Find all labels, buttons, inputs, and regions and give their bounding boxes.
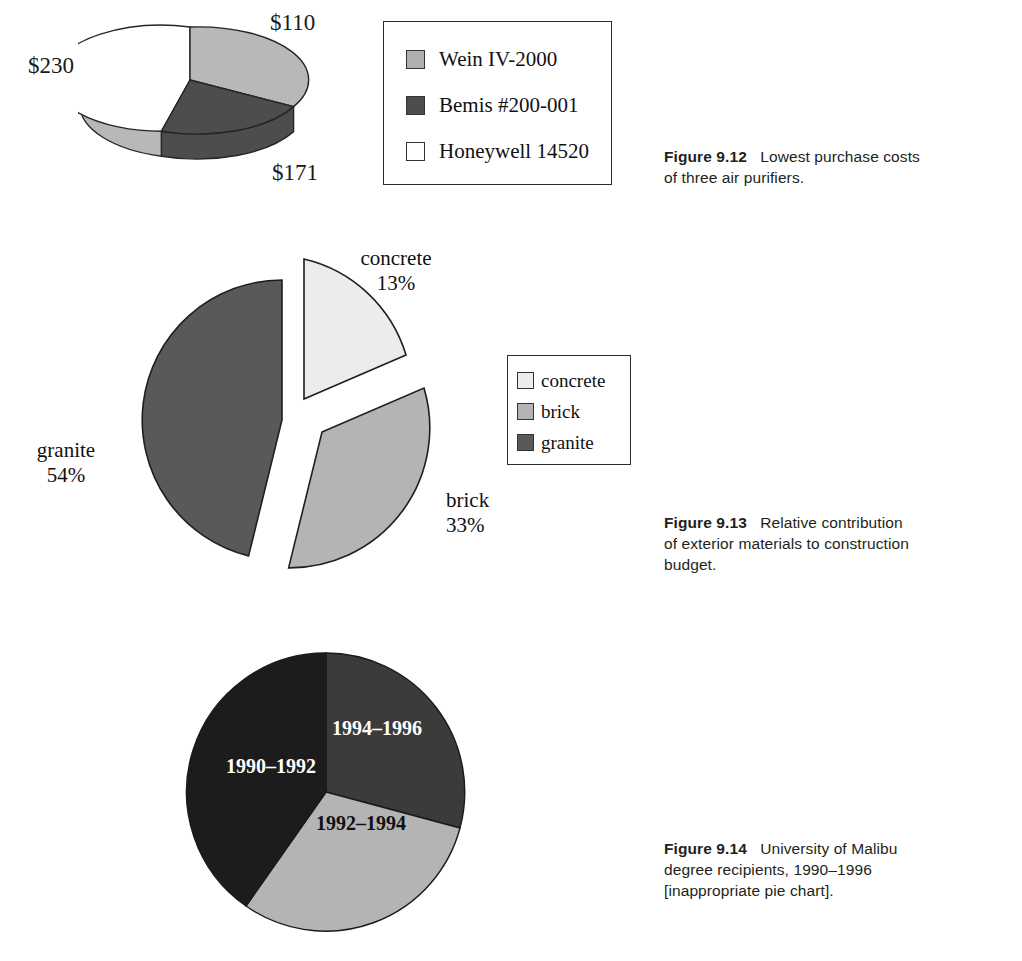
fig-9-13-caption-line1: Relative contribution xyxy=(760,514,903,531)
legend-swatch-brick xyxy=(517,403,534,420)
fig-9-12-caption-line1: Lowest purchase costs xyxy=(760,148,920,165)
fig-9-12-label-bemis-value: $171 xyxy=(272,160,318,186)
legend-item-wein: Wein IV-2000 xyxy=(406,36,611,82)
fig-9-13-slice-granite xyxy=(142,280,282,556)
fig-9-12-caption: Figure 9.12 Lowest purchase costs of thr… xyxy=(664,146,1009,188)
fig-9-14-label-1994-1996: 1994–1996 xyxy=(332,717,422,740)
fig-9-14-label-1990-1992: 1990–1992 xyxy=(226,755,316,778)
pie-svg xyxy=(185,648,471,938)
fig-9-12-pie-chart xyxy=(78,20,318,170)
legend-label-wein: Wein IV-2000 xyxy=(439,47,557,72)
fig-9-14-pie-chart xyxy=(185,648,471,938)
legend-label-bemis: Bemis #200-001 xyxy=(439,93,578,118)
fig-9-12-caption-number: Figure 9.12 xyxy=(664,148,747,165)
fig-9-13-label-concrete-name: concrete xyxy=(352,246,440,271)
fig-9-13-caption-line2: of exterior materials to construction xyxy=(664,535,909,552)
fig-9-13-label-brick: brick 33% xyxy=(446,488,526,538)
fig-9-14-caption-line1: University of Malibu xyxy=(760,840,897,857)
fig-9-13-caption-number: Figure 9.13 xyxy=(664,514,747,531)
fig-9-13-label-concrete-pct: 13% xyxy=(352,271,440,296)
fig-9-14-label-1992-1994: 1992–1994 xyxy=(316,812,406,835)
legend-swatch-concrete xyxy=(517,372,534,389)
legend-swatch-bemis xyxy=(406,96,425,115)
fig-9-12-caption-line2: of three air purifiers. xyxy=(664,169,804,186)
fig-9-13-slice-brick-group xyxy=(289,388,430,568)
fig-9-13-label-brick-pct: 33% xyxy=(446,513,526,538)
exploded-pie-svg xyxy=(120,245,510,615)
legend-label-concrete: concrete xyxy=(541,370,605,392)
legend-item-concrete: concrete xyxy=(517,365,630,396)
legend-item-brick: brick xyxy=(517,396,630,427)
fig-9-14-caption-line3: [inappropriate pie chart]. xyxy=(664,882,834,899)
legend-item-honeywell: Honeywell 14520 xyxy=(406,128,611,174)
fig-9-13-label-granite: granite 54% xyxy=(24,438,108,488)
pie-3d-svg xyxy=(78,20,318,170)
figure-page: $110 $171 $230 Wein IV-2000 Bemis #200-0… xyxy=(0,0,1022,961)
fig-9-13-legend: concrete brick granite xyxy=(507,355,631,465)
legend-label-brick: brick xyxy=(541,401,580,423)
legend-swatch-granite xyxy=(517,434,534,451)
fig-9-13-caption-line3: budget. xyxy=(664,556,716,573)
fig-9-13-slice-brick xyxy=(289,388,430,568)
fig-9-13-label-concrete: concrete 13% xyxy=(352,246,440,296)
fig-9-12-label-wein-value: $110 xyxy=(270,10,315,36)
fig-9-13-label-brick-name: brick xyxy=(446,488,526,513)
legend-label-granite: granite xyxy=(541,432,594,454)
fig-9-13-label-granite-name: granite xyxy=(24,438,108,463)
legend-label-honeywell: Honeywell 14520 xyxy=(439,139,589,164)
legend-swatch-honeywell xyxy=(406,142,425,161)
legend-swatch-wein xyxy=(406,50,425,69)
fig-9-13-label-granite-pct: 54% xyxy=(24,463,108,488)
fig-9-12-label-honeywell-value: $230 xyxy=(28,53,74,79)
fig-9-12-legend: Wein IV-2000 Bemis #200-001 Honeywell 14… xyxy=(383,21,612,185)
fig-9-13-pie-chart xyxy=(120,245,510,615)
fig-9-14-caption: Figure 9.14 University of Malibu degree … xyxy=(664,838,1009,901)
legend-item-granite: granite xyxy=(517,427,630,458)
fig-9-13-caption: Figure 9.13 Relative contribution of ext… xyxy=(664,512,1009,575)
fig-9-14-caption-line2: degree recipients, 1990–1996 xyxy=(664,861,872,878)
legend-item-bemis: Bemis #200-001 xyxy=(406,82,611,128)
fig-9-13-slice-granite-group xyxy=(142,280,282,556)
fig-9-14-caption-number: Figure 9.14 xyxy=(664,840,747,857)
